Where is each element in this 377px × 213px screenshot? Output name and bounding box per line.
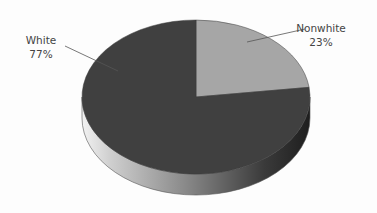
label-white-pct: 77% xyxy=(16,47,66,61)
label-white: White 77% xyxy=(16,33,66,61)
label-white-name: White xyxy=(16,33,66,47)
label-nonwhite: Nonwhite 23% xyxy=(291,21,351,49)
label-nonwhite-name: Nonwhite xyxy=(291,21,351,35)
label-nonwhite-pct: 23% xyxy=(291,35,351,49)
